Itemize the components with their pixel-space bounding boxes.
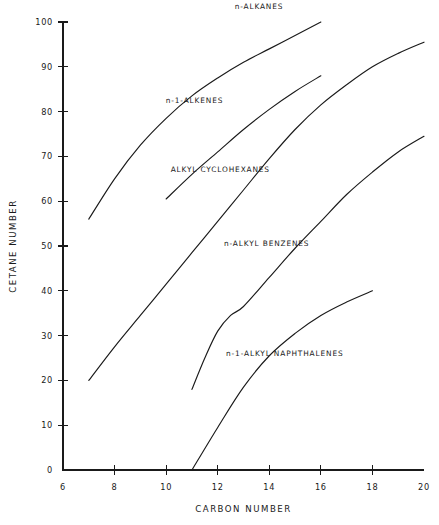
cetane-number-chart: 010203040506070809010068101214161820 n-A… <box>0 0 439 525</box>
y-tick-label-0: 0 <box>47 465 53 475</box>
curve-alkyl-cyclohexanes <box>89 42 424 380</box>
tick-labels: 010203040506070809010068101214161820 <box>35 17 430 492</box>
x-tick-label-6: 6 <box>60 482 66 492</box>
series-label-2: ALKYL CYCLOHEXANES <box>171 165 270 174</box>
y-tick-label-60: 60 <box>41 196 53 206</box>
x-tick-label-10: 10 <box>160 482 172 492</box>
x-tick-label-14: 14 <box>263 482 275 492</box>
y-tick-label-50: 50 <box>41 241 53 251</box>
y-tick-label-70: 70 <box>41 151 53 161</box>
y-tick-label-80: 80 <box>41 107 53 117</box>
series-label-0: n-ALKANES <box>235 2 284 11</box>
x-tick-label-18: 18 <box>367 482 379 492</box>
y-axis-title: CETANE NUMBER <box>8 199 18 292</box>
tick-marks <box>58 22 372 475</box>
series-labels: n-ALKANESn-1-ALKENESALKYL CYCLOHEXANESn-… <box>166 2 344 358</box>
curve-n-1-alkenes <box>166 76 321 199</box>
series-label-4: n-1-ALKYL NAPHTHALENES <box>226 349 343 358</box>
y-tick-label-30: 30 <box>41 331 53 341</box>
y-tick-label-90: 90 <box>41 62 53 72</box>
x-tick-label-16: 16 <box>315 482 327 492</box>
y-tick-label-20: 20 <box>41 375 53 385</box>
y-tick-label-40: 40 <box>41 286 53 296</box>
y-tick-label-100: 100 <box>35 17 53 27</box>
x-tick-label-20: 20 <box>418 482 430 492</box>
x-tick-label-8: 8 <box>112 482 118 492</box>
x-tick-label-12: 12 <box>212 482 224 492</box>
series-label-3: n-ALKYL BENZENES <box>224 239 309 248</box>
chart-canvas: 010203040506070809010068101214161820 n-A… <box>0 0 439 525</box>
curve-n-alkanes <box>89 22 321 219</box>
x-axis-title: CARBON NUMBER <box>195 504 291 514</box>
y-tick-label-10: 10 <box>41 420 53 430</box>
curve-n-1-alkyl-naphthalenes <box>192 291 373 470</box>
series-label-1: n-1-ALKENES <box>166 96 224 105</box>
